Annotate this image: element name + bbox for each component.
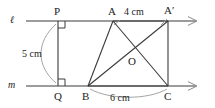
dimension-label-5cm: 5 cm [22, 49, 42, 59]
point-label-A: A [108, 6, 116, 17]
dimension-arc-5cm [41, 24, 56, 83]
geometry-diagram: ℓ m P Q A A′ B C O 5 cm 4 cm 6 cm [0, 0, 215, 108]
point-label-A-prime: A′ [164, 5, 174, 16]
point-label-B: B [82, 91, 89, 102]
dimension-label-6cm: 6 cm [110, 93, 130, 103]
right-angle-mark-at-P [58, 21, 65, 28]
right-angle-mark-at-Q [58, 79, 65, 86]
point-label-C: C [164, 91, 171, 102]
point-label-P: P [54, 6, 60, 17]
segment-A-C [113, 21, 168, 86]
dimension-label-4cm: 4 cm [124, 7, 144, 17]
line-label-l: ℓ [10, 15, 14, 25]
line-label-m: m [8, 80, 15, 90]
point-label-O: O [128, 56, 136, 67]
point-label-Q: Q [54, 91, 62, 102]
